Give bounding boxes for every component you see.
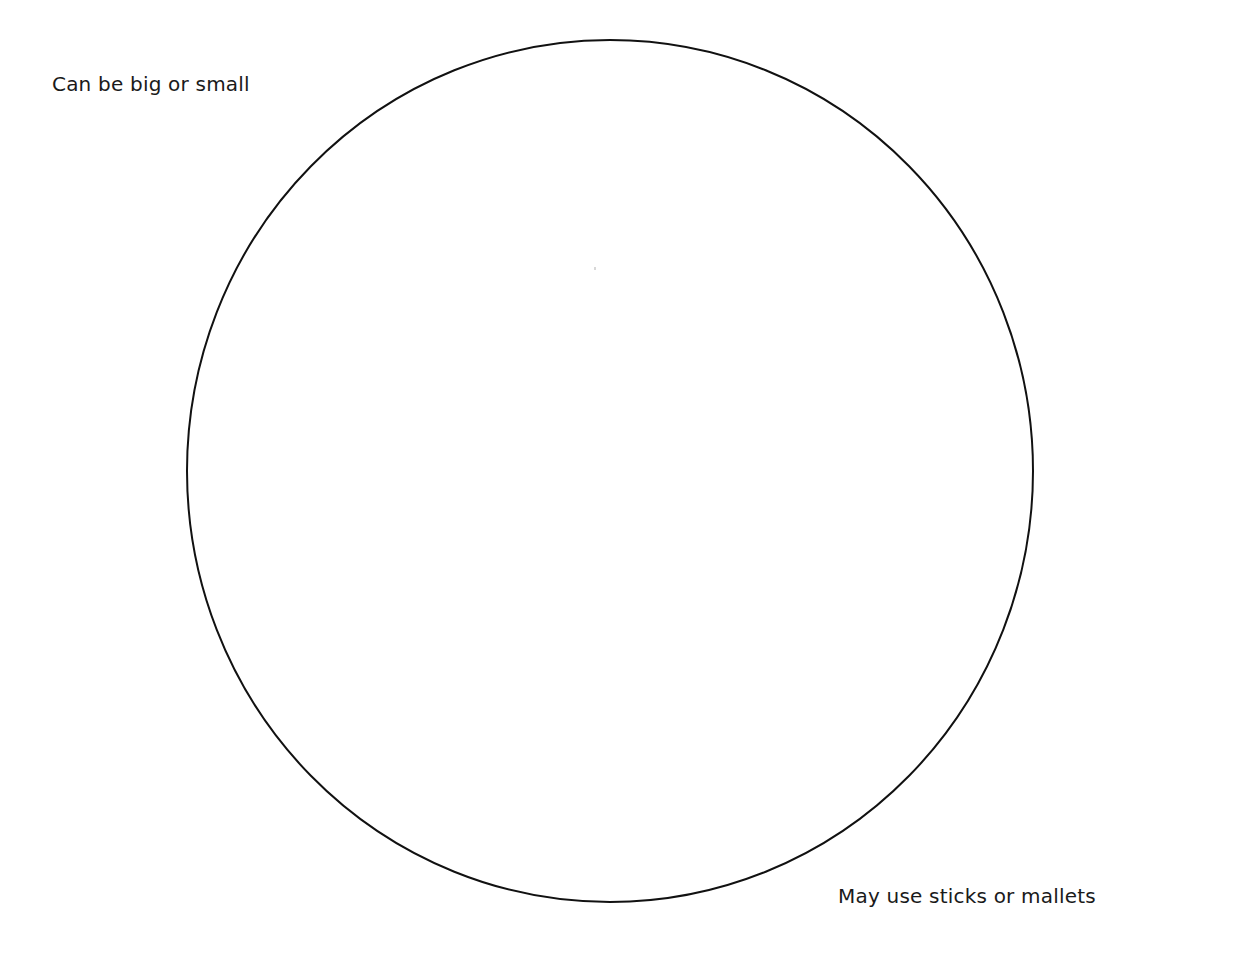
main-circle [187,40,1033,902]
label-top-left: Can be big or small [52,72,250,96]
paper-speck [594,267,596,270]
label-bottom-right: May use sticks or mallets [838,884,1096,908]
circle-diagram [0,0,1236,957]
diagram-canvas: Can be big or small May use sticks or ma… [0,0,1236,957]
